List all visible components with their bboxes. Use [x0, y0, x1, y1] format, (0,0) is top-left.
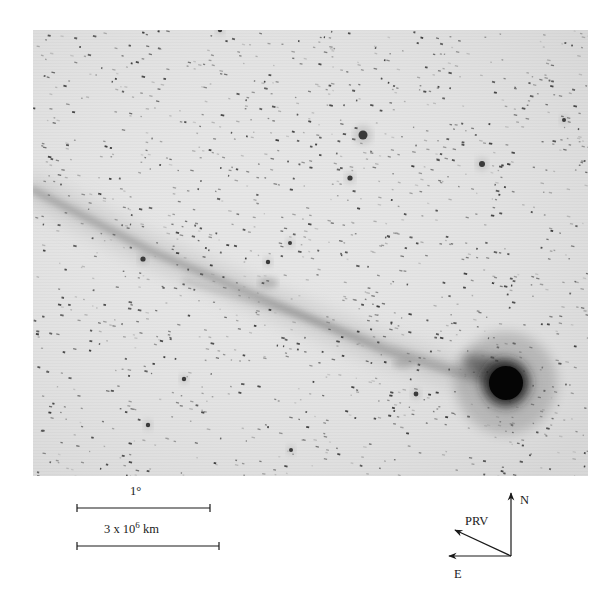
scale-bar-distance-label: 3 x 106 km	[104, 523, 159, 536]
compass-north-label: N	[520, 494, 529, 507]
compass-prv-label: PRV	[465, 515, 488, 528]
comet-figure: 1° 3 x 106 km N E PRV	[0, 0, 612, 599]
scale-bar-0	[77, 504, 210, 512]
scale-bar-angle-label: 1°	[130, 485, 141, 498]
compass-east-label: E	[454, 568, 462, 581]
scale-bar-1	[77, 542, 219, 550]
star-field	[33, 30, 588, 476]
compass-arrow-prv	[455, 530, 511, 556]
comet-photograph	[33, 30, 588, 476]
